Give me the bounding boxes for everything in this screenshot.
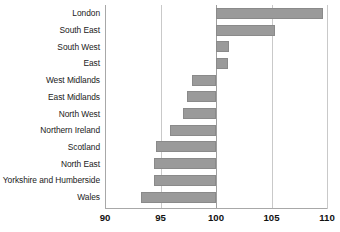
plot-area [105, 5, 327, 209]
category-label: Yorkshire and Humberside [0, 175, 100, 185]
bar [154, 158, 216, 169]
bar [192, 75, 216, 86]
gridline-105 [272, 5, 273, 209]
category-label: South East [0, 25, 100, 35]
category-label: North East [0, 159, 100, 169]
category-label: London [0, 8, 100, 18]
category-axis: LondonSouth EastSouth WestEastWest Midla… [0, 5, 100, 205]
category-label: Northern Ireland [0, 125, 100, 135]
x-tick-label: 95 [146, 212, 176, 224]
bar [141, 192, 216, 203]
category-label: East Midlands [0, 92, 100, 102]
category-label: Scotland [0, 142, 100, 152]
category-label: West Midlands [0, 75, 100, 85]
bar [183, 108, 216, 119]
x-axis-line [105, 208, 327, 209]
x-tick-label: 110 [312, 212, 340, 224]
gridline-110 [327, 5, 328, 209]
category-label: East [0, 58, 100, 68]
x-tick-label: 100 [201, 212, 231, 224]
x-tick-label: 90 [90, 212, 120, 224]
bar [216, 58, 228, 69]
category-label: North West [0, 109, 100, 119]
gridline-90 [105, 5, 106, 209]
bar [170, 125, 216, 136]
bar [216, 8, 323, 19]
bar [216, 41, 229, 52]
category-label: South West [0, 42, 100, 52]
category-label: Wales [0, 192, 100, 202]
gridline-100 [216, 5, 217, 209]
x-tick-label: 105 [257, 212, 287, 224]
value-axis: 9095100105110 [105, 212, 327, 228]
bar [216, 25, 275, 36]
bar [156, 141, 216, 152]
bar [154, 175, 216, 186]
bar [187, 91, 216, 102]
